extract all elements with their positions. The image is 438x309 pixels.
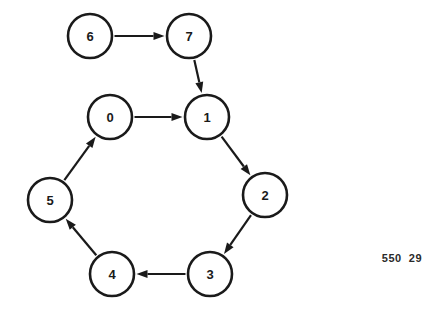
edge-arrowhead — [172, 113, 183, 121]
edge-arrowhead — [224, 243, 234, 254]
graph-node-3[interactable]: 3 — [188, 252, 232, 296]
directed-graph-canvas: 01234567 — [0, 0, 438, 309]
edge-arrowhead — [137, 270, 148, 278]
node-label: 6 — [86, 29, 93, 44]
nodes-layer: 01234567 — [28, 14, 287, 296]
node-label: 7 — [185, 29, 192, 44]
graph-node-5[interactable]: 5 — [28, 178, 72, 222]
graph-node-6[interactable]: 6 — [68, 14, 112, 58]
node-label: 2 — [261, 188, 268, 203]
node-label: 5 — [46, 193, 53, 208]
edge-line — [230, 215, 251, 245]
node-label: 3 — [206, 267, 213, 282]
edge-line — [73, 227, 96, 255]
edge-6-to-7 — [115, 32, 165, 40]
edge-0-to-1 — [135, 113, 183, 121]
graph-node-0[interactable]: 0 — [88, 95, 132, 139]
edge-2-to-3 — [224, 215, 251, 254]
node-label: 4 — [108, 267, 116, 282]
edge-line — [64, 146, 89, 180]
graph-node-4[interactable]: 4 — [90, 252, 134, 296]
edge-5-to-0 — [64, 137, 95, 180]
node-label: 0 — [106, 110, 113, 125]
edge-arrowhead — [195, 81, 203, 93]
graph-node-7[interactable]: 7 — [167, 14, 211, 58]
graph-node-1[interactable]: 1 — [185, 95, 229, 139]
edge-line — [194, 60, 199, 82]
node-label: 1 — [203, 110, 210, 125]
edges-layer — [64, 32, 251, 278]
edge-1-to-2 — [222, 137, 251, 176]
edge-line — [222, 137, 244, 167]
edge-7-to-1 — [194, 60, 203, 93]
graph-node-2[interactable]: 2 — [243, 173, 287, 217]
edge-arrowhead — [154, 32, 165, 40]
edge-4-to-5 — [66, 219, 97, 255]
diagram-page: 01234567 550 29 — [0, 0, 438, 309]
edge-3-to-4 — [137, 270, 186, 278]
corner-code-label: 550 29 — [382, 252, 422, 264]
